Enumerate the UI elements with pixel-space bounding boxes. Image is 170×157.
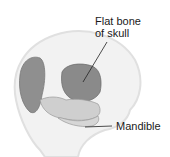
flat-bone-label-line2: of skull [95,27,155,39]
mandible-label: Mandible [116,120,161,132]
flat-bone-label-line1: Flat bone [95,15,155,27]
skull-diagram: Flat bone of skull Mandible [0,0,170,157]
flat-bone [62,64,102,102]
flat-bone-label: Flat bone of skull [95,15,155,39]
